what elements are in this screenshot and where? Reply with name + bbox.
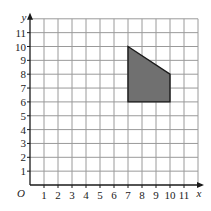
axes bbox=[27, 13, 204, 188]
y-axis-arrow-icon bbox=[27, 13, 33, 20]
grid-lines bbox=[30, 19, 198, 185]
x-tick-label: 1 bbox=[41, 189, 47, 201]
y-tick-label: 9 bbox=[21, 54, 27, 66]
y-tick-label: 10 bbox=[15, 41, 27, 53]
y-axis-label: y bbox=[21, 11, 27, 23]
x-tick-label: 10 bbox=[165, 189, 177, 201]
x-tick-label: 3 bbox=[69, 189, 75, 201]
x-tick-label: 5 bbox=[97, 189, 103, 201]
y-tick-label: 8 bbox=[21, 68, 27, 80]
x-tick-label: 9 bbox=[153, 189, 159, 201]
x-tick-label: 6 bbox=[111, 189, 117, 201]
x-tick-label: 4 bbox=[83, 189, 89, 201]
x-tick-label: 7 bbox=[125, 189, 131, 201]
shaded-quadrilateral bbox=[128, 47, 170, 102]
y-tick-label: 4 bbox=[21, 124, 27, 136]
x-tick-label: 2 bbox=[55, 189, 61, 201]
origin-label: O bbox=[17, 187, 25, 199]
x-tick-label: 8 bbox=[139, 189, 145, 201]
y-tick-label: 6 bbox=[21, 96, 27, 108]
y-tick-label: 7 bbox=[21, 82, 27, 94]
y-tick-label: 3 bbox=[21, 137, 27, 149]
y-tick-label: 5 bbox=[21, 110, 27, 122]
y-tick-label: 2 bbox=[21, 151, 27, 163]
x-axis-label: x bbox=[196, 187, 202, 199]
x-tick-label: 11 bbox=[179, 189, 190, 201]
coordinate-grid: 12345678910111234567891011Oxy bbox=[0, 0, 211, 211]
y-tick-label: 1 bbox=[21, 165, 27, 177]
axis-labels: 12345678910111234567891011Oxy bbox=[15, 11, 202, 201]
y-tick-label: 11 bbox=[15, 27, 26, 39]
